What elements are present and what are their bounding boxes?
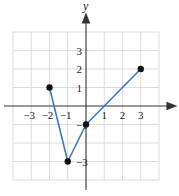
y-tick-label: 3	[77, 45, 83, 57]
data-point	[138, 66, 144, 72]
x-tick-label: 1	[102, 109, 108, 121]
x-tick-label: 3	[138, 109, 144, 121]
axes	[4, 14, 176, 190]
y-tick-label: 1	[77, 82, 83, 94]
x-tick-label: −2	[42, 109, 54, 121]
y-axis-arrow-icon	[83, 14, 90, 23]
y-tick-label: −3	[76, 156, 88, 168]
x-tick-label: −3	[23, 109, 35, 121]
coordinate-plane: y −3−2−1123 321−1−3	[0, 0, 179, 196]
x-tick-label: 2	[120, 109, 126, 121]
data-point	[46, 84, 52, 90]
x-tick-label: −1	[60, 109, 72, 121]
x-axis-arrow-icon	[167, 103, 176, 110]
y-axis-label: y	[82, 0, 89, 13]
y-tick-label: 2	[77, 63, 83, 75]
data-point	[83, 121, 89, 127]
data-point	[65, 158, 71, 164]
